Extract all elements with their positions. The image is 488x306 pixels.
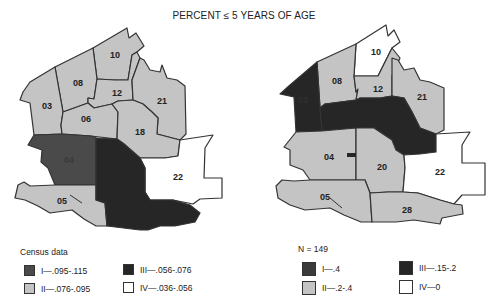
label-22: 22 — [435, 167, 445, 177]
region-04 — [28, 134, 96, 185]
label-10: 10 — [371, 47, 381, 57]
swatch-class-IV — [399, 280, 413, 294]
label-04: 04 — [64, 155, 74, 165]
label-22: 22 — [173, 172, 183, 182]
label-06: 06 — [81, 114, 91, 124]
label-21: 21 — [417, 92, 427, 102]
legend-item-III: III—.15-.2 — [399, 261, 456, 275]
label-05: 05 — [320, 192, 330, 202]
swatch-class-II — [302, 281, 316, 295]
label-04: 04 — [324, 152, 334, 162]
legend-heading: N = 149 — [298, 244, 328, 254]
legend-item-II: II—.2-.4 — [302, 281, 352, 295]
legend-heading: Census data — [20, 247, 68, 257]
label-28: 28 — [402, 205, 412, 215]
label-10: 10 — [110, 50, 120, 60]
label-12: 12 — [373, 84, 383, 94]
swatch-class-III — [123, 264, 134, 275]
label-03: 03 — [42, 101, 52, 111]
legend-item-IV: IV—0 — [399, 280, 440, 294]
label-05: 05 — [57, 196, 67, 206]
legend-item-I: I—.095-.115 — [24, 265, 87, 276]
region-04 — [284, 128, 356, 180]
label-08: 08 — [332, 76, 342, 86]
label-08: 08 — [73, 78, 83, 88]
label-21: 21 — [157, 96, 167, 106]
road-stub — [347, 153, 356, 157]
left-legend: Census data I—.095-.115 II—.076-.095 III… — [20, 247, 240, 303]
legend-label: III—.15-.2 — [419, 263, 456, 273]
legend-item-II: II—.076-.095 — [24, 283, 90, 294]
label-12: 12 — [112, 88, 122, 98]
legend-label: I—.095-.115 — [41, 266, 87, 276]
legend-label: IV—0 — [419, 282, 440, 292]
swatch-class-IV — [123, 282, 134, 293]
label-18: 18 — [135, 127, 145, 137]
legend-label: II—.076-.095 — [41, 284, 90, 294]
legend-label: III—.056-.076 — [140, 265, 192, 275]
legend-item-I: I—.4 — [302, 262, 340, 276]
swatch-class-II — [24, 283, 35, 294]
legend-label: I—.4 — [322, 264, 340, 274]
legend-label: IV—.036-.056 — [140, 283, 192, 293]
legend-label: II—.2-.4 — [322, 283, 352, 293]
right-legend: N = 149 I—.4 II—.2-.4 III—.15-.2 IV—0 — [298, 244, 488, 304]
legend-item-III: III—.056-.076 — [123, 264, 192, 275]
swatch-class-I — [24, 265, 35, 276]
legend-item-IV: IV—.036-.056 — [123, 282, 192, 293]
label-03: 03 — [298, 95, 308, 105]
swatch-class-I — [302, 262, 316, 276]
swatch-class-III — [399, 261, 413, 275]
label-20: 20 — [377, 162, 387, 172]
